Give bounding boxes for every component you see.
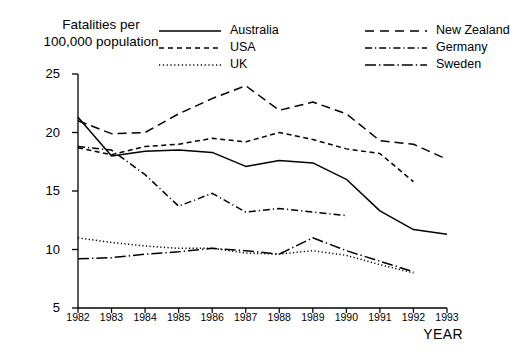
y-tick-label: 25 xyxy=(30,66,60,81)
x-axis-title: YEAR xyxy=(423,326,463,342)
y-tick-label: 10 xyxy=(30,242,60,257)
x-tick-label: 1990 xyxy=(329,311,363,323)
series-line-new-zealand xyxy=(78,86,447,160)
x-tick-label: 1983 xyxy=(95,311,129,323)
series-line-uk xyxy=(78,238,413,273)
y-tick-label: 5 xyxy=(30,300,60,315)
x-tick-label: 1992 xyxy=(396,311,430,323)
x-tick-label: 1988 xyxy=(262,311,296,323)
series-line-australia xyxy=(78,117,447,234)
series-line-germany xyxy=(78,147,346,216)
x-tick-label: 1984 xyxy=(128,311,162,323)
y-tick-label: 15 xyxy=(30,183,60,198)
series-line-sweden xyxy=(78,238,413,272)
x-tick-label: 1982 xyxy=(61,311,95,323)
y-tick-label: 20 xyxy=(30,125,60,140)
x-tick-label: 1989 xyxy=(296,311,330,323)
x-tick-label: 1985 xyxy=(162,311,196,323)
x-tick-label: 1986 xyxy=(195,311,229,323)
series-line-usa xyxy=(78,133,413,182)
x-tick-label: 1991 xyxy=(363,311,397,323)
x-tick-label: 1993 xyxy=(430,311,464,323)
x-tick-label: 1987 xyxy=(229,311,263,323)
